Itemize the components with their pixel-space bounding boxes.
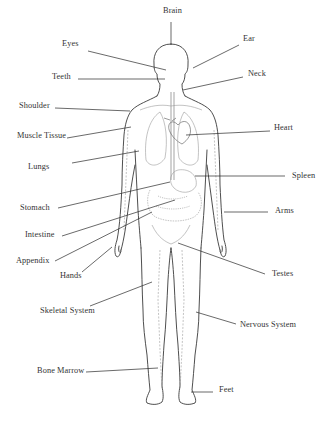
leader-line-neck <box>183 77 243 90</box>
leader-line-stomach <box>58 182 170 208</box>
label-testes: Testes <box>272 269 293 278</box>
leader-line-shoulder <box>55 108 130 111</box>
label-lungs: Lungs <box>28 162 49 171</box>
label-shoulder: Shoulder <box>19 101 50 110</box>
label-eyes: Eyes <box>62 39 79 48</box>
label-skeletal-system: Skeletal System <box>40 306 95 315</box>
leader-line-bone-marrow <box>86 368 158 372</box>
body-outline <box>115 44 226 404</box>
stomach-organ <box>171 170 197 193</box>
label-arms: Arms <box>275 206 294 215</box>
leader-line-ear <box>193 45 239 68</box>
label-feet: Feet <box>219 385 234 394</box>
label-teeth: Teeth <box>52 72 71 81</box>
internal-organs <box>124 92 218 390</box>
label-ear: Ear <box>243 34 255 43</box>
leader-line-testes <box>178 243 265 274</box>
label-appendix: Appendix <box>16 256 50 265</box>
leader-line-lungs <box>72 151 139 163</box>
leader-line-nervous-system <box>196 312 236 324</box>
leader-line-muscle-tissue <box>67 127 131 138</box>
leader-line-heart <box>186 131 270 135</box>
leader-line-hands <box>82 247 112 272</box>
label-neck: Neck <box>248 69 266 78</box>
label-bone-marrow: Bone Marrow <box>37 366 84 375</box>
label-spleen: Spleen <box>292 171 315 180</box>
label-intestine: Intestine <box>25 230 54 239</box>
label-stomach: Stomach <box>20 203 50 212</box>
lungs-organ <box>146 112 167 165</box>
label-muscle-tissue: Muscle Tissue <box>17 131 66 140</box>
intestine-organ <box>148 190 202 221</box>
heart-organ <box>169 121 191 144</box>
label-nervous-system: Nervous System <box>240 320 296 329</box>
label-hands: Hands <box>60 271 82 280</box>
label-brain: Brain <box>163 6 182 15</box>
label-heart: Heart <box>274 123 293 132</box>
